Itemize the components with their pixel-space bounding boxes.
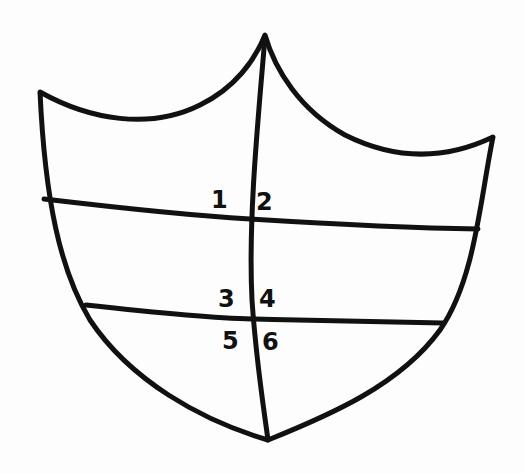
vertical-divider-line <box>251 37 268 440</box>
region-label-6: 6 <box>262 330 279 354</box>
region-label-2: 2 <box>256 190 273 214</box>
shield-outline <box>40 35 493 440</box>
shield-drawing <box>0 0 525 473</box>
region-label-1: 1 <box>211 188 228 212</box>
region-label-3: 3 <box>218 287 235 311</box>
region-label-4: 4 <box>259 287 276 311</box>
shield-diagram: 1 2 3 4 5 6 <box>0 0 525 473</box>
region-label-5: 5 <box>222 329 239 353</box>
